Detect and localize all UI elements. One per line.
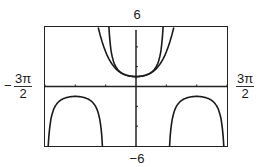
axes [45,30,227,146]
plot-area [0,0,266,167]
sec-left-branch [48,96,102,146]
sec-right-branch [170,96,224,146]
